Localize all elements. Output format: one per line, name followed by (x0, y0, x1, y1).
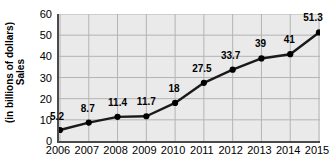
data-point-label: 11.7 (137, 96, 156, 107)
data-point-label: 5.2 (50, 111, 64, 122)
data-point-label: 41 (284, 34, 295, 45)
x-axis-tick-label: 2015 (305, 144, 329, 156)
data-point-label: 11.4 (108, 97, 127, 108)
x-axis-tick-label: 2011 (190, 144, 214, 156)
x-axis-tick-label: 2012 (218, 144, 242, 156)
y-axis-tick-label: 20 (40, 93, 52, 105)
line-chart: (in billions of dollars) Sales 010203040… (0, 0, 330, 163)
x-axis-tick-label: 2010 (161, 144, 185, 156)
x-axis-tick-label: 2006 (46, 144, 70, 156)
y-axis-title-line-1: Sales (16, 59, 26, 85)
y-axis-tick-label: 60 (40, 8, 52, 20)
x-axis-tick-label: 2007 (75, 144, 99, 156)
x-axis-tick-label: 2008 (103, 144, 127, 156)
data-point-label: 39 (255, 38, 266, 49)
y-axis-tick-label: 40 (40, 50, 52, 62)
data-point-label: 8.7 (81, 103, 95, 114)
y-axis-tick-label: 50 (40, 29, 52, 41)
x-axis-tick-label: 2013 (247, 144, 271, 156)
x-axis-tick-label: 2014 (276, 144, 300, 156)
data-series-sales (59, 14, 320, 141)
data-point-label: 18 (169, 83, 180, 94)
data-point-label: 33.7 (221, 50, 240, 61)
y-axis-title-line-2: (in billions of dollars) (5, 22, 15, 123)
y-axis-tick-label: 30 (40, 72, 52, 84)
x-axis-tick-label: 2009 (132, 144, 156, 156)
data-point-label: 27.5 (192, 63, 211, 74)
x-axis-tick-labels: 2006200720082009201020112012201320142015 (57, 144, 318, 161)
plot-inner (59, 14, 320, 141)
data-point-label: 51.3 (303, 12, 322, 23)
plot-area: 5.28.711.411.71827.533.7394151.3 (57, 14, 320, 143)
